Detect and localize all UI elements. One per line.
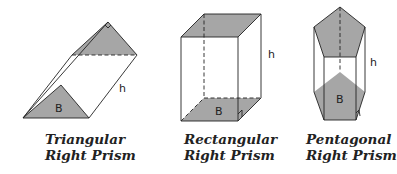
rectangular-caption: Rectangular Right Prism [184, 131, 277, 163]
back-triangle-face [72, 22, 137, 55]
caption-line-1: Rectangular [184, 131, 277, 147]
triangular-prism [23, 22, 137, 118]
caption-line-2: Right Prism [45, 147, 136, 163]
top-face [181, 14, 261, 37]
caption-line-1: Pentagonal [306, 131, 397, 147]
rectangular-base-label: B [215, 105, 223, 118]
triangular-height-label: h [119, 82, 126, 95]
pentagonal-caption: Pentagonal Right Prism [306, 131, 397, 163]
top-pentagon-face [314, 7, 365, 57]
triangular-caption: Triangular Right Prism [45, 131, 136, 163]
caption-line-2: Right Prism [306, 147, 397, 163]
pentagonal-base-label: B [336, 93, 344, 106]
triangular-base-label: B [55, 102, 63, 115]
caption-line-1: Triangular [45, 131, 136, 147]
pentagonal-height-label: h [370, 56, 377, 69]
caption-line-2: Right Prism [184, 147, 277, 163]
rectangular-height-label: h [268, 48, 275, 61]
